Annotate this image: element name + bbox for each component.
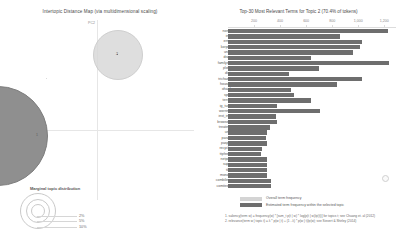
bar-track xyxy=(228,61,396,65)
marginal-tick-line-2 xyxy=(37,216,77,217)
bar-track xyxy=(228,152,396,156)
bar-topic-frequency xyxy=(228,157,267,161)
legend-row: Estimated term frequency within the sele… xyxy=(240,203,400,208)
bar-topic-frequency xyxy=(228,120,277,124)
x-axis-tick-label: 200 xyxy=(251,19,257,23)
x-axis-tick-mark xyxy=(358,25,359,27)
marginal-ring-label-2: 2% xyxy=(79,214,85,218)
mds-scatter-plot[interactable]: PC2 PC1 1 2 xyxy=(0,18,196,203)
bar-topic-frequency xyxy=(228,82,337,86)
bar-track xyxy=(228,93,396,97)
x-axis-tick-mark xyxy=(280,25,281,27)
marginal-topic-distribution-legend: Marginal topic distribution 2% 5% 10% xyxy=(16,186,126,238)
bar-topic-frequency xyxy=(228,179,271,183)
bar-topic-frequency xyxy=(228,114,276,118)
bar-track xyxy=(228,130,396,134)
legend-label: Overall term frequency xyxy=(266,196,301,200)
bar-track xyxy=(228,88,396,92)
x-axis-tick-label: 1,200 xyxy=(380,19,389,23)
x-axis-tick-mark xyxy=(254,25,255,27)
bar-chart-x-axis: 2004006008001,0001,200 xyxy=(228,19,396,28)
bar-track xyxy=(228,184,396,188)
bar-topic-frequency xyxy=(228,77,362,81)
marginal-tick-line-5 xyxy=(37,221,77,222)
bar-chart-title: Top-30 Most Relevant Terms for Topic 2 (… xyxy=(196,9,401,14)
bar-topic-frequency xyxy=(228,125,270,129)
bar-topic-frequency xyxy=(228,88,291,92)
footnote-block: 1. saliency(term w) = frequency(w) * [su… xyxy=(225,214,400,224)
bar-topic-frequency xyxy=(228,168,267,172)
top-terms-panel: Top-30 Most Relevant Terms for Topic 2 (… xyxy=(196,0,401,245)
topic-selection-indicator[interactable] xyxy=(382,175,389,182)
marginal-legend-title: Marginal topic distribution xyxy=(30,186,80,191)
bar-topic-frequency xyxy=(228,152,261,156)
bar-track xyxy=(228,179,396,183)
topic-bubble-label-1: 1 xyxy=(36,133,38,137)
pyldavis-visualization: Intertopic Distance Map (via multidimens… xyxy=(0,0,401,245)
x-axis-tick-label: 600 xyxy=(303,19,309,23)
bar-track xyxy=(228,82,396,86)
plot-marker-dot xyxy=(46,78,47,79)
bar-topic-frequency xyxy=(228,173,267,177)
bar-track xyxy=(228,157,396,161)
bar-topic-frequency xyxy=(228,184,271,188)
topic-bubble-label-2: 2 xyxy=(116,52,118,56)
bar-topic-frequency xyxy=(228,45,360,49)
bar-track xyxy=(228,104,396,108)
bar-track xyxy=(228,72,396,76)
bar-track xyxy=(228,77,396,81)
topic-bubble-1[interactable] xyxy=(0,86,48,186)
footnote: 2. relevance(term w | topic t) = λ * p(w… xyxy=(225,219,400,224)
bar-track xyxy=(228,34,396,38)
bar-topic-frequency xyxy=(228,147,262,151)
bar-row[interactable]: comitees xyxy=(196,183,401,188)
marginal-ring-label-5: 5% xyxy=(79,219,85,223)
x-axis-tick-mark xyxy=(384,25,385,27)
marginal-ring-label-10: 10% xyxy=(79,225,87,229)
bar-topic-frequency xyxy=(228,104,277,108)
x-axis-tick-label: 800 xyxy=(329,19,335,23)
legend-row: Overall term frequency xyxy=(240,196,400,201)
bar-track xyxy=(228,173,396,177)
x-axis-tick-label: 400 xyxy=(277,19,283,23)
x-axis-tick-mark xyxy=(306,25,307,27)
bar-track xyxy=(228,66,396,70)
bar-chart-rows[interactable]: normingernekorpetunibdragfamilyseplotbdi… xyxy=(196,29,401,195)
bar-topic-frequency xyxy=(228,141,267,145)
page-title: Intertopic Distance Map (via multidimens… xyxy=(10,9,190,14)
bar-track xyxy=(228,163,396,167)
x-axis-tick-label: 1,000 xyxy=(354,19,363,23)
bar-topic-frequency xyxy=(228,93,294,97)
bar-topic-frequency xyxy=(228,72,289,76)
bar-topic-frequency xyxy=(228,34,340,38)
marginal-tick-line-10 xyxy=(37,227,77,228)
bar-track xyxy=(228,109,396,113)
bar-track xyxy=(228,98,396,102)
legend-swatch xyxy=(240,197,262,201)
legend-swatch xyxy=(240,203,262,207)
bar-track xyxy=(228,168,396,172)
bar-topic-frequency xyxy=(228,29,388,33)
bar-topic-frequency xyxy=(228,136,266,140)
bar-track xyxy=(228,141,396,145)
bar-track xyxy=(228,56,396,60)
bar-track xyxy=(228,120,396,124)
topic-bubble-2[interactable] xyxy=(93,30,143,80)
bar-track xyxy=(228,114,396,118)
intertopic-distance-panel: Intertopic Distance Map (via multidimens… xyxy=(0,0,196,245)
bar-chart-legend: Overall term frequencyEstimated term fre… xyxy=(240,196,400,208)
bar-topic-frequency xyxy=(228,40,362,44)
bar-topic-frequency xyxy=(228,56,311,60)
legend-label: Estimated term frequency within the sele… xyxy=(266,203,344,207)
bar-topic-frequency xyxy=(228,61,389,65)
bar-track xyxy=(228,125,396,129)
bar-track xyxy=(228,147,396,151)
bar-track xyxy=(228,45,396,49)
bar-topic-frequency xyxy=(228,98,311,102)
bar-topic-frequency xyxy=(228,66,319,70)
bar-topic-frequency xyxy=(228,109,320,113)
bar-topic-frequency xyxy=(228,50,353,54)
bar-topic-frequency xyxy=(228,130,267,134)
bar-topic-frequency xyxy=(228,163,267,167)
bar-track xyxy=(228,50,396,54)
